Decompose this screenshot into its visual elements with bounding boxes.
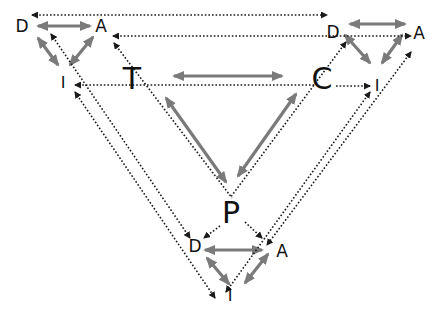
node-t: T bbox=[123, 64, 141, 94]
gray-arrow-b-a-i bbox=[245, 254, 268, 283]
gray-arrow-tr-d-i bbox=[345, 35, 370, 63]
node-c: C bbox=[312, 64, 333, 94]
top-left-i: I bbox=[61, 75, 66, 91]
gray-arrow-tl-a-i bbox=[70, 37, 93, 65]
gray-arrow-tl-d-i bbox=[38, 38, 58, 65]
top-right-d: D bbox=[326, 24, 339, 41]
bottom-i: I bbox=[228, 288, 233, 304]
dotted-arrow-tr-i-diag bbox=[226, 92, 370, 292]
dotted-arrow-p-to-bd bbox=[204, 226, 220, 238]
triad-diagram bbox=[0, 0, 444, 315]
top-left-d: D bbox=[15, 18, 28, 35]
dotted-arrow-tr-a-diag bbox=[267, 52, 411, 245]
dotted-arrow-p-to-ba bbox=[245, 222, 262, 238]
bottom-d: D bbox=[188, 238, 201, 255]
dotted-arrow-tl-a-diag-2 bbox=[75, 92, 215, 298]
bottom-a: A bbox=[276, 243, 288, 260]
node-p: P bbox=[222, 198, 240, 228]
top-right-a: A bbox=[413, 25, 425, 42]
gray-arrow-t-p bbox=[166, 98, 226, 182]
gray-arrow-tr-a-i bbox=[382, 35, 402, 63]
top-left-a: A bbox=[95, 18, 107, 35]
dotted-arrows bbox=[32, 15, 411, 298]
gray-arrows bbox=[38, 24, 405, 284]
gray-arrow-c-p bbox=[238, 94, 296, 176]
top-right-i: I bbox=[375, 78, 380, 94]
dotted-arrow-tl-a-diag-1 bbox=[51, 34, 190, 238]
gray-arrow-b-d-i bbox=[207, 258, 229, 284]
